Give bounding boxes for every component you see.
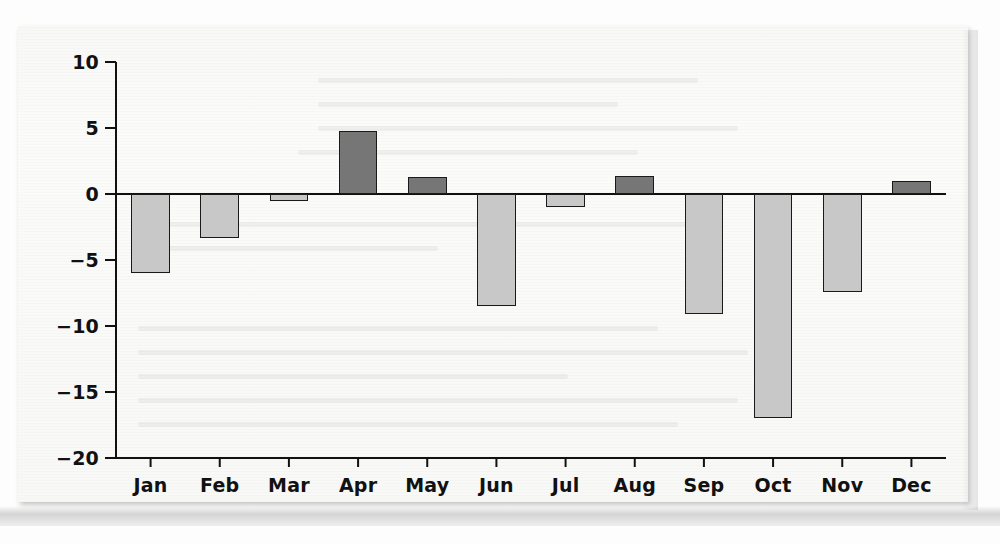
bar-apr — [339, 131, 378, 194]
x-axis-tick-label-apr: Apr — [339, 474, 377, 496]
bar-jul — [546, 194, 585, 207]
y-axis-tick-label: −10 — [56, 315, 99, 337]
y-axis-tick-label: 10 — [72, 51, 99, 73]
x-axis-tick-label-nov: Nov — [821, 474, 863, 496]
x-axis-tick-label-aug: Aug — [614, 474, 656, 496]
y-axis-tick-label: −15 — [56, 381, 99, 403]
y-axis-tick-label: −20 — [56, 447, 99, 469]
bar-chart: 1050−5−10−15−20 JanFebMarAprMayJunJulAug… — [0, 0, 1000, 544]
y-axis-tick-label: 0 — [86, 183, 99, 205]
bar-mar — [270, 194, 309, 201]
y-axis-tick-label: −5 — [69, 249, 99, 271]
bar-oct — [754, 194, 793, 418]
x-axis-tick-label-jul: Jul — [552, 474, 580, 496]
bar-sep — [685, 194, 724, 314]
x-axis-tick-label-dec: Dec — [891, 474, 932, 496]
bar-jan — [131, 194, 170, 273]
x-axis-tick-label-jan: Jan — [134, 474, 168, 496]
bar-jun — [477, 194, 516, 306]
x-axis-tick-label-mar: Mar — [268, 474, 310, 496]
scanned-page: 1050−5−10−15−20 JanFebMarAprMayJunJulAug… — [0, 0, 1000, 544]
bar-dec — [892, 181, 931, 194]
x-axis-tick-label-may: May — [405, 474, 449, 496]
x-axis-tick-label-oct: Oct — [755, 474, 792, 496]
x-axis-tick-label-sep: Sep — [684, 474, 725, 496]
x-axis-tick-label-jun: Jun — [479, 474, 514, 496]
y-axis-tick-label: 5 — [86, 117, 99, 139]
bar-aug — [615, 176, 654, 194]
bar-feb — [200, 194, 239, 238]
x-axis-tick-label-feb: Feb — [200, 474, 239, 496]
bar-may — [408, 177, 447, 194]
bar-nov — [823, 194, 862, 292]
